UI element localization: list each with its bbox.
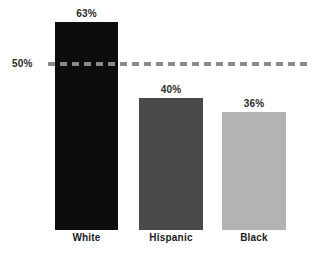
bar-value-white: 63% bbox=[55, 8, 118, 19]
bar-value-hispanic: 40% bbox=[139, 84, 203, 95]
bar-label-white: White bbox=[55, 232, 118, 243]
bar-label-hispanic: Hispanic bbox=[139, 232, 203, 243]
bar-label-black: Black bbox=[222, 232, 286, 243]
bar-white bbox=[55, 22, 118, 230]
plot-area: 63% White 40% Hispanic 36% Black 50% bbox=[0, 0, 316, 258]
bar-value-black: 36% bbox=[222, 98, 286, 109]
bar-chart: 63% White 40% Hispanic 36% Black 50% bbox=[0, 0, 316, 258]
bar-hispanic bbox=[139, 98, 203, 230]
bar-black bbox=[222, 112, 286, 230]
reference-line-label: 50% bbox=[12, 58, 46, 70]
reference-line-50: 50% bbox=[0, 58, 316, 70]
reference-line-dash bbox=[48, 62, 312, 66]
